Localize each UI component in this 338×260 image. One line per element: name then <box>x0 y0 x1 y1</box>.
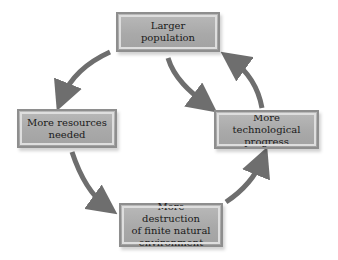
node-label: More technological progress <box>222 112 311 148</box>
arrow-resources-to-destruction <box>72 152 106 206</box>
arrow-destruction-to-technology <box>226 160 262 202</box>
node-label: More destruction of finite natural envir… <box>127 201 215 249</box>
arrow-technology-to-population <box>232 60 262 108</box>
arrow-population-to-resources <box>62 52 110 98</box>
node-label: More resources needed <box>27 117 107 141</box>
node-larger-population: Larger population <box>116 12 220 52</box>
node-more-destruction: More destruction of finite natural envir… <box>119 203 223 247</box>
node-more-resources-needed: More resources needed <box>17 109 117 148</box>
node-label: Larger population <box>141 20 195 44</box>
node-more-technological-progress: More technological progress <box>214 110 319 149</box>
arrow-population-to-technology <box>168 58 206 104</box>
